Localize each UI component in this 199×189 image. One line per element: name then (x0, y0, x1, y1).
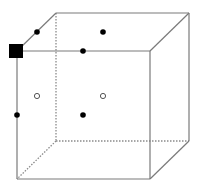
filled-point-top-face-center (100, 29, 106, 35)
hidden-edge-bottom-left-diagonal (17, 141, 56, 179)
filled-point-edge-midpoint-front-top (80, 48, 86, 54)
origin-marker (9, 44, 23, 58)
cube-diagram (0, 0, 199, 189)
filled-point-edge-midpoint-front-left (14, 112, 20, 118)
filled-point-front-face-center (80, 112, 86, 118)
edge-top-right-diagonal (150, 13, 189, 51)
cube-canvas (0, 0, 199, 189)
edge-bottom-right-diagonal (150, 141, 189, 179)
filled-point-edge-midpoint-top-left-diagonal (34, 29, 40, 35)
hollow-point-left-face-center (34, 93, 39, 98)
origin-square-marker (9, 44, 23, 58)
hollow-point-back-face-center (100, 93, 105, 98)
points (14, 29, 106, 118)
